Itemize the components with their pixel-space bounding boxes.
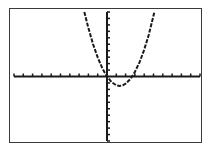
calculator-graph-screen xyxy=(9,8,202,143)
graph-plot xyxy=(10,9,203,144)
